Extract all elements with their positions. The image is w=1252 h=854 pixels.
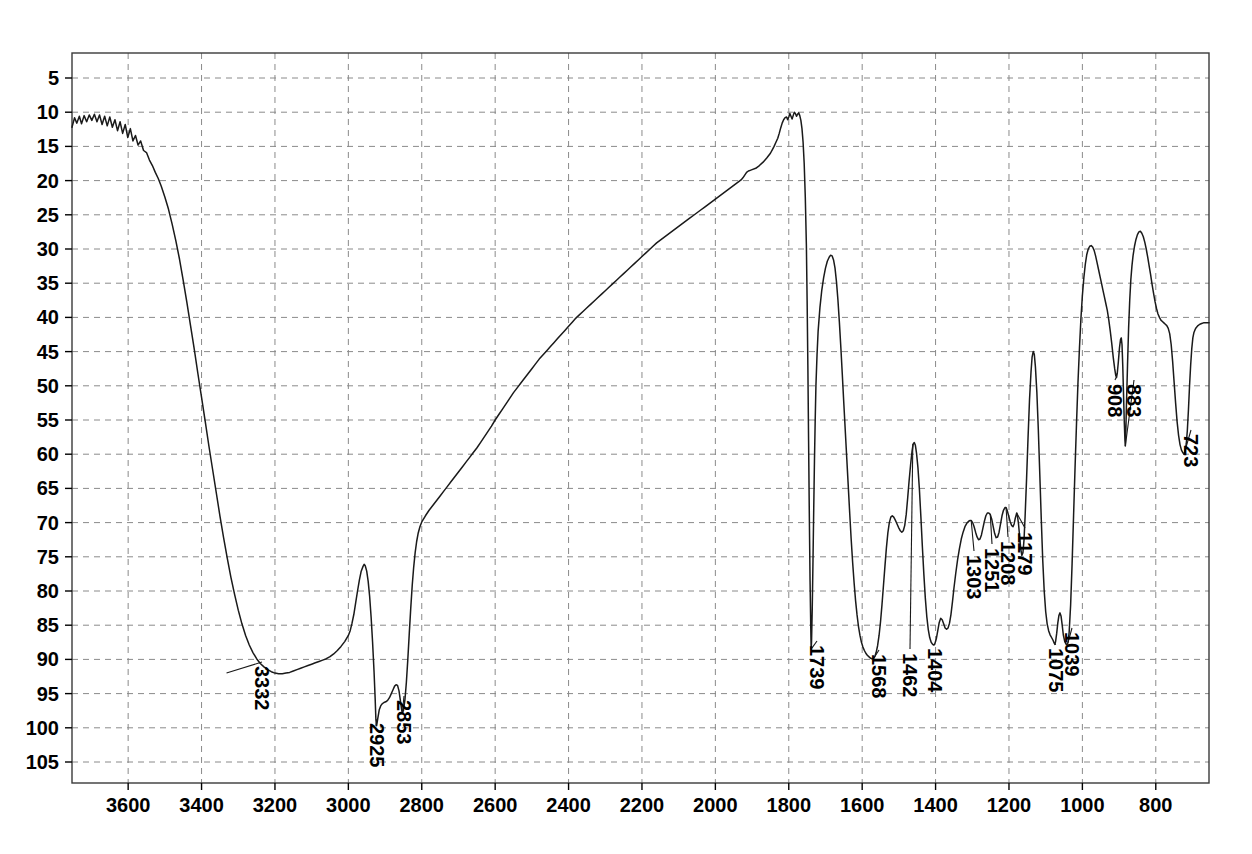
peak-label: 1462 xyxy=(899,653,921,698)
x-tick-label: 1800 xyxy=(767,794,812,816)
peak-label: 1739 xyxy=(806,645,828,690)
y-tick-label: 100 xyxy=(26,717,59,739)
y-tick-label: 10 xyxy=(37,101,59,123)
peak-label: 2853 xyxy=(393,700,415,745)
x-axis-tick-labels: 3600340032003000280026002400220020001800… xyxy=(106,794,1173,816)
y-tick-label: 70 xyxy=(37,512,59,534)
peak-label: 908 xyxy=(1104,384,1126,417)
peak-label: 883 xyxy=(1123,384,1145,417)
y-tick-label: 55 xyxy=(37,409,59,431)
peak-label: 2925 xyxy=(366,723,388,768)
peak-label: 1568 xyxy=(868,654,890,699)
x-tick-label: 1600 xyxy=(840,794,885,816)
x-tick-label: 3200 xyxy=(253,794,298,816)
peak-label: 1404 xyxy=(924,648,946,693)
y-tick-label: 90 xyxy=(37,648,59,670)
y-tick-label: 5 xyxy=(48,67,59,89)
y-tick-label: 105 xyxy=(26,751,59,773)
y-tick-label: 85 xyxy=(37,614,59,636)
y-tick-label: 15 xyxy=(37,135,59,157)
y-tick-label: 95 xyxy=(37,683,59,705)
y-tick-label: 80 xyxy=(37,580,59,602)
peak-label: 3332 xyxy=(251,666,273,711)
x-tick-label: 2000 xyxy=(693,794,738,816)
x-tick-label: 3000 xyxy=(326,794,371,816)
x-tick-label: 800 xyxy=(1139,794,1172,816)
y-tick-label: 60 xyxy=(37,443,59,465)
peak-leader-line xyxy=(934,644,935,645)
y-tick-label: 25 xyxy=(37,204,59,226)
x-tick-label: 1200 xyxy=(987,794,1032,816)
x-tick-label: 2400 xyxy=(546,794,591,816)
x-tick-label: 1400 xyxy=(913,794,958,816)
y-tick-label: 65 xyxy=(37,477,59,499)
ir-spectrum-chart: 3600340032003000280026002400220020001800… xyxy=(0,0,1252,854)
spectrum-figure: 3600340032003000280026002400220020001800… xyxy=(0,0,1252,854)
chart-background xyxy=(0,0,1252,854)
peak-label: 723 xyxy=(1180,434,1202,467)
y-tick-label: 35 xyxy=(37,272,59,294)
y-tick-label: 30 xyxy=(37,238,59,260)
y-tick-label: 45 xyxy=(37,341,59,363)
peak-label: 1179 xyxy=(1014,532,1036,575)
x-tick-label: 2200 xyxy=(620,794,665,816)
x-tick-label: 2800 xyxy=(400,794,445,816)
y-tick-label: 75 xyxy=(37,546,59,568)
x-tick-label: 2600 xyxy=(473,794,518,816)
y-tick-label: 20 xyxy=(37,170,59,192)
x-tick-label: 3600 xyxy=(106,794,151,816)
x-tick-label: 1000 xyxy=(1060,794,1105,816)
x-tick-label: 3400 xyxy=(179,794,224,816)
peak-label: 1039 xyxy=(1061,632,1083,677)
y-tick-label: 50 xyxy=(37,375,59,397)
y-tick-label: 40 xyxy=(37,306,59,328)
